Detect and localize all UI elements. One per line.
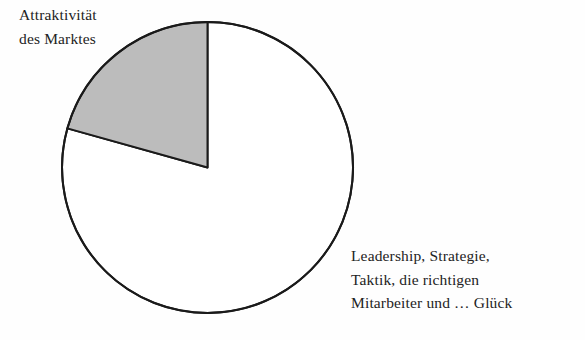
label-success-factors: Leadership, Strategie, Taktik, die richt… (351, 244, 512, 315)
pie-chart-figure: Attraktivität des Marktes Leadership, St… (0, 0, 585, 340)
label-market-attractiveness-line-2: des Marktes (19, 27, 97, 51)
label-market-attractiveness-line-1: Attraktivität (19, 3, 97, 27)
label-success-factors-line-1: Leadership, Strategie, (351, 244, 512, 268)
label-success-factors-line-2: Taktik, die richtigen (351, 268, 512, 292)
label-success-factors-line-3: Mitarbeiter und … Glück (351, 291, 512, 315)
label-market-attractiveness: Attraktivität des Marktes (19, 3, 97, 50)
